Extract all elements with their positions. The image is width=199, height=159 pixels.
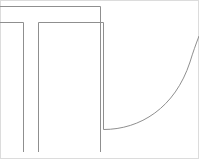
drawing-canvas bbox=[0, 0, 199, 159]
line-drawing bbox=[0, 0, 199, 159]
canvas-background bbox=[0, 0, 199, 159]
